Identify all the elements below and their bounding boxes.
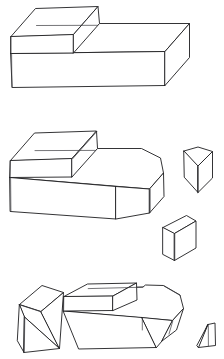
figure-stepped-block-intact[interactable] — [11, 7, 190, 88]
figure-cut-corner-block-piece[interactable] — [163, 216, 196, 261]
chamfer-step-front-face — [10, 159, 72, 178]
figure-stepped-block-chamfered-open[interactable] — [64, 283, 184, 349]
open-step-front-face — [64, 296, 114, 311]
chamfer-slab-front-right-face — [116, 187, 150, 220]
figure-stepped-block-chamfered[interactable] — [10, 131, 164, 219]
lower-slab-front-face — [11, 52, 165, 88]
figure-triangular-prism-piece[interactable] — [184, 147, 213, 193]
upper-step-front-face — [11, 35, 74, 54]
figure-thin-sliver-piece[interactable] — [197, 323, 216, 348]
cut-piece-left-face — [163, 228, 175, 261]
sketch-canvas — [0, 0, 224, 359]
tilted-wedge-front-vertical — [24, 317, 25, 352]
sketch-sheet: Hand-drawn stepped block shapes Line dra… — [0, 0, 224, 359]
figure-tilted-wedge-piece[interactable] — [18, 286, 64, 353]
